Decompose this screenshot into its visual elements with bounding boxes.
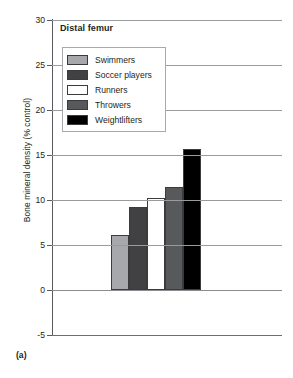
legend-label: Swimmers bbox=[95, 55, 135, 65]
chart-title: Distal femur bbox=[60, 23, 113, 33]
legend: SwimmersSoccer playersRunnersThrowersWei… bbox=[62, 47, 166, 132]
legend-swatch-icon-swimmers bbox=[67, 55, 88, 65]
legend-swatch-icon-runners bbox=[67, 85, 88, 95]
y-tick-label-5: 5 bbox=[40, 240, 45, 250]
bar-throwers bbox=[165, 187, 183, 290]
legend-item-swimmers: Swimmers bbox=[67, 52, 160, 67]
y-tick-10 bbox=[47, 200, 52, 201]
panel-label: (a) bbox=[16, 350, 27, 360]
bar-soccer-players bbox=[129, 207, 147, 290]
y-tick-label--5: -5 bbox=[37, 330, 45, 340]
gridline-30: 30 bbox=[52, 20, 282, 21]
y-tick-30 bbox=[47, 20, 52, 21]
legend-label: Runners bbox=[95, 85, 127, 95]
figure-panel-a: Bone mineral density (% control) 3025201… bbox=[0, 0, 293, 378]
legend-item-soccer-players: Soccer players bbox=[67, 67, 160, 82]
y-tick-label-0: 0 bbox=[40, 285, 45, 295]
y-tick-label-20: 20 bbox=[35, 105, 45, 115]
legend-label: Weightlifters bbox=[95, 115, 142, 125]
legend-label: Soccer players bbox=[95, 70, 152, 80]
y-tick--5 bbox=[47, 335, 52, 336]
gridline-5: 5 bbox=[52, 245, 282, 246]
legend-label: Throwers bbox=[95, 100, 131, 110]
gridline--5: -5 bbox=[52, 335, 282, 336]
y-tick-5 bbox=[47, 245, 52, 246]
legend-item-throwers: Throwers bbox=[67, 97, 160, 112]
bar-swimmers bbox=[111, 235, 129, 290]
gridline-10: 10 bbox=[52, 200, 282, 201]
y-tick-label-15: 15 bbox=[35, 150, 45, 160]
y-axis-title: Bone mineral density (% control) bbox=[22, 60, 32, 260]
y-tick-25 bbox=[47, 65, 52, 66]
y-tick-label-10: 10 bbox=[35, 195, 45, 205]
gridline-0: 0 bbox=[52, 290, 282, 291]
gridline-15: 15 bbox=[52, 155, 282, 156]
legend-item-weightlifters: Weightlifters bbox=[67, 112, 160, 127]
legend-swatch-icon-throwers bbox=[67, 100, 88, 110]
y-tick-20 bbox=[47, 110, 52, 111]
y-tick-15 bbox=[47, 155, 52, 156]
legend-swatch-icon-weightlifters bbox=[67, 115, 88, 125]
legend-item-runners: Runners bbox=[67, 82, 160, 97]
y-tick-label-30: 30 bbox=[35, 15, 45, 25]
y-tick-label-25: 25 bbox=[35, 60, 45, 70]
legend-swatch-icon-soccer-players bbox=[67, 70, 88, 80]
bar-weightlifters bbox=[183, 149, 201, 290]
y-tick-0 bbox=[47, 290, 52, 291]
